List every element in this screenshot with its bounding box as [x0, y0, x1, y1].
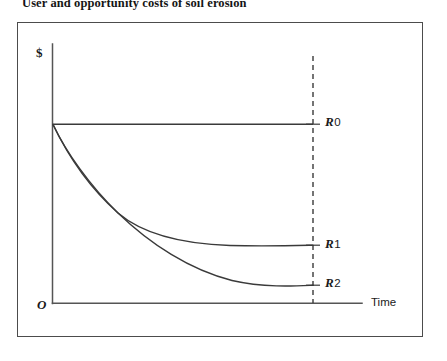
figure-title: User and opportunity costs of soil erosi…: [22, 0, 422, 12]
figure-frame: [17, 22, 423, 337]
series-label-r0: R0: [325, 116, 341, 128]
y-axis-label: $: [36, 47, 43, 59]
series-label-r2: R2: [325, 277, 341, 289]
figure-container: User and opportunity costs of soil erosi…: [0, 0, 447, 361]
series-label-r1-prefix: R: [325, 236, 334, 251]
series-label-r2-prefix: R: [325, 275, 334, 290]
x-axis-label: Time: [371, 296, 396, 308]
series-label-r1: R1: [325, 238, 341, 250]
series-label-r1-suffix: 1: [334, 238, 340, 250]
series-label-r0-suffix: 0: [334, 116, 340, 128]
axis-origin-label: O: [37, 299, 46, 311]
series-label-r2-suffix: 2: [334, 277, 340, 289]
series-label-r0-prefix: R: [325, 114, 334, 129]
